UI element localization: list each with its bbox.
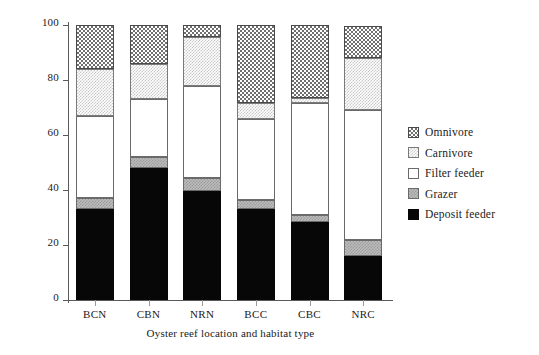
- plot-area: [68, 25, 390, 300]
- legend-label: Filter feeder: [425, 167, 484, 179]
- x-tick-cbn: [149, 300, 150, 306]
- bar-segment-bcn-grazer[interactable]: [76, 198, 114, 209]
- y-tick-label: 100: [42, 17, 59, 28]
- bar-segment-nrn-omnivore[interactable]: [183, 25, 221, 37]
- bar-segment-cbc-grazer[interactable]: [291, 215, 329, 222]
- legend-label: Deposit feeder: [425, 208, 495, 220]
- bar-segment-cbn-filter-feeder[interactable]: [130, 99, 168, 157]
- bar-segment-cbn-omnivore[interactable]: [130, 25, 168, 64]
- legend-item-deposit-feeder[interactable]: Deposit feeder: [408, 208, 495, 220]
- legend-swatch-icon: [408, 168, 419, 179]
- bar-segment-nrn-grazer[interactable]: [183, 178, 221, 192]
- legend-item-filter-feeder[interactable]: Filter feeder: [408, 167, 495, 179]
- bar-segment-bcc-deposit-feeder[interactable]: [237, 209, 275, 300]
- figure-container: Percent Oyster reef location and habitat…: [0, 0, 539, 355]
- chart-legend: OmnivoreCarnivoreFilter feederGrazerDepo…: [408, 126, 495, 220]
- bar-segment-nrc-omnivore[interactable]: [344, 26, 382, 58]
- bar-segment-nrc-deposit-feeder[interactable]: [344, 256, 382, 300]
- y-tick-label: 20: [48, 237, 59, 248]
- bar-nrc[interactable]: [344, 25, 382, 300]
- bar-segment-bcc-carnivore[interactable]: [237, 103, 275, 118]
- y-tick-label: 80: [48, 72, 59, 83]
- bar-segment-nrn-filter-feeder[interactable]: [183, 86, 221, 178]
- legend-item-carnivore[interactable]: Carnivore: [408, 147, 495, 159]
- bar-segment-nrn-deposit-feeder[interactable]: [183, 191, 221, 300]
- bar-segment-cbn-grazer[interactable]: [130, 157, 168, 168]
- bar-segment-bcn-omnivore[interactable]: [76, 25, 114, 69]
- bar-segment-bcn-filter-feeder[interactable]: [76, 116, 114, 199]
- y-tick-label: 40: [48, 182, 59, 193]
- legend-item-grazer[interactable]: Grazer: [408, 188, 495, 200]
- bar-segment-cbc-carnivore[interactable]: [291, 98, 329, 104]
- bar-segment-cbn-carnivore[interactable]: [130, 64, 168, 100]
- legend-swatch-icon: [408, 188, 419, 199]
- bar-segment-cbn-deposit-feeder[interactable]: [130, 168, 168, 300]
- bar-segment-bcc-grazer[interactable]: [237, 200, 275, 210]
- y-tick-label: 0: [53, 292, 59, 303]
- x-tick-bcc: [256, 300, 257, 306]
- bar-segment-nrc-carnivore[interactable]: [344, 58, 382, 110]
- legend-label: Carnivore: [425, 147, 473, 159]
- y-tick-label: 60: [48, 127, 59, 138]
- x-tick-nrn: [202, 300, 203, 306]
- bar-segment-cbc-filter-feeder[interactable]: [291, 103, 329, 214]
- bar-segment-cbc-omnivore[interactable]: [291, 25, 329, 98]
- x-axis-title: Oyster reef location and habitat type: [68, 327, 393, 339]
- bar-bcc[interactable]: [237, 25, 275, 300]
- bar-segment-bcn-carnivore[interactable]: [76, 69, 114, 116]
- bar-segment-bcc-filter-feeder[interactable]: [237, 119, 275, 200]
- legend-swatch-icon: [408, 147, 419, 158]
- bar-cbc[interactable]: [291, 25, 329, 300]
- x-tick-label-nrc: NRC: [328, 308, 398, 320]
- bar-segment-nrc-filter-feeder[interactable]: [344, 110, 382, 239]
- y-tick-mark: [63, 300, 69, 301]
- bar-segment-cbc-deposit-feeder[interactable]: [291, 222, 329, 300]
- x-axis-line: [68, 300, 393, 301]
- x-tick-bcn: [95, 300, 96, 306]
- legend-item-omnivore[interactable]: Omnivore: [408, 126, 495, 138]
- legend-swatch-icon: [408, 127, 419, 138]
- bar-segment-nrc-grazer[interactable]: [344, 240, 382, 257]
- x-tick-nrc: [363, 300, 364, 306]
- x-tick-cbc: [310, 300, 311, 306]
- bar-segment-nrn-carnivore[interactable]: [183, 37, 221, 85]
- bar-cbn[interactable]: [130, 25, 168, 300]
- legend-label: Omnivore: [425, 126, 473, 138]
- bar-nrn[interactable]: [183, 25, 221, 300]
- bar-bcn[interactable]: [76, 25, 114, 300]
- legend-label: Grazer: [425, 188, 457, 200]
- legend-swatch-icon: [408, 209, 419, 220]
- bar-segment-bcc-omnivore[interactable]: [237, 25, 275, 103]
- bar-segment-bcn-deposit-feeder[interactable]: [76, 209, 114, 300]
